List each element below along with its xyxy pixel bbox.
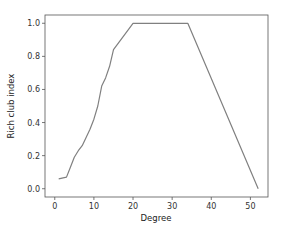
x-tick-label: 0 bbox=[52, 202, 57, 211]
rich-club-chart: 0.00.20.40.60.81.0 01020304050 Degree Ri… bbox=[0, 0, 282, 233]
x-tick-label: 30 bbox=[167, 202, 177, 211]
y-tick-label: 0.2 bbox=[27, 152, 40, 161]
y-tick-label: 0.8 bbox=[27, 52, 40, 61]
y-tick-label: 0.6 bbox=[27, 85, 40, 94]
x-axis-ticks: 01020304050 bbox=[52, 197, 255, 211]
axes-frame bbox=[45, 15, 268, 197]
x-tick-label: 40 bbox=[206, 202, 216, 211]
rich-club-line bbox=[59, 23, 259, 188]
y-tick-label: 0.0 bbox=[27, 185, 40, 194]
y-tick-label: 0.4 bbox=[27, 119, 40, 128]
y-tick-label: 1.0 bbox=[27, 19, 40, 28]
y-axis-label: Rich club index bbox=[6, 74, 16, 139]
x-tick-label: 20 bbox=[128, 202, 138, 211]
x-tick-label: 50 bbox=[245, 202, 255, 211]
x-axis-label: Degree bbox=[141, 213, 172, 223]
y-axis-ticks: 0.00.20.40.60.81.0 bbox=[27, 19, 45, 193]
x-tick-label: 10 bbox=[89, 202, 99, 211]
